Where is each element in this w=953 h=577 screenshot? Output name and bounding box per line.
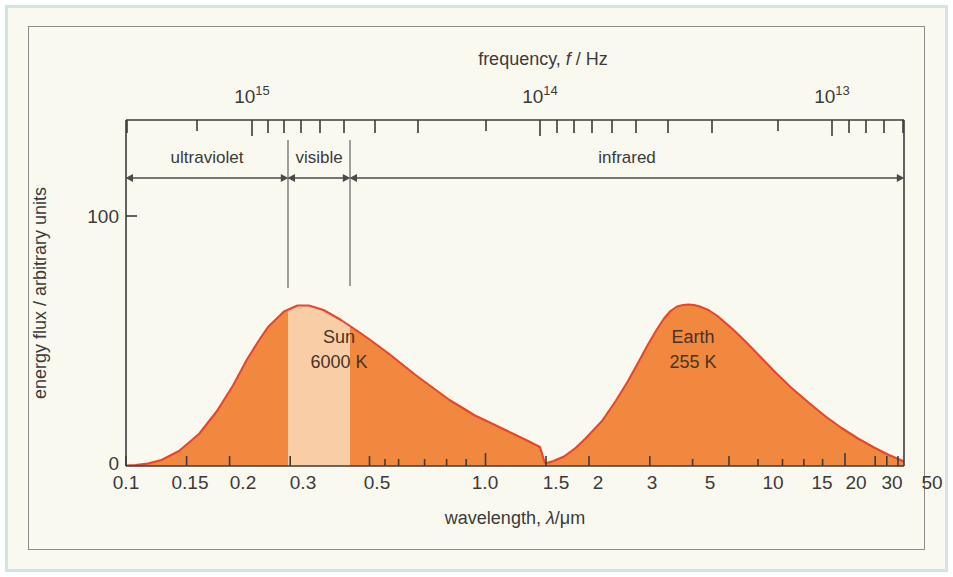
xtick-label-0.3: 0.3: [290, 472, 316, 493]
xtick-label-15: 15: [811, 472, 832, 493]
xtick-label-0.5: 0.5: [364, 472, 390, 493]
xtick-label-0.1: 0.1: [113, 472, 139, 493]
ftick-mantissa-1e15: 10: [234, 86, 255, 107]
y-axis-title: energy flux / arbitrary units: [30, 187, 50, 399]
wavelength-axis-title-prefix: wavelength,: [444, 508, 546, 528]
xtick-label-20: 20: [845, 472, 866, 493]
wavelength-axis-title: wavelength, λ/μm: [444, 508, 585, 528]
xtick-label-0.15: 0.15: [172, 472, 209, 493]
frequency-axis-title: frequency, f / Hz: [478, 49, 608, 69]
frequency-tick-labels: 1015 1014 1013: [234, 83, 850, 107]
earth-label-name: Earth: [671, 327, 714, 347]
ftick-mantissa-1e13: 10: [814, 86, 835, 107]
xtick-label-0.2: 0.2: [230, 472, 256, 493]
band-label-visible: visible: [295, 148, 342, 167]
xtick-label-30: 30: [881, 472, 902, 493]
band-labels: ultraviolet visible infrared: [171, 148, 656, 167]
xtick-label-2: 2: [593, 472, 604, 493]
frequency-axis-ticks: [127, 120, 903, 136]
xtick-label-10: 10: [762, 472, 783, 493]
sun-label-temperature: 6000 K: [310, 352, 367, 372]
frequency-axis-title-prefix: frequency,: [478, 49, 566, 69]
frequency-axis-title-suffix: / Hz: [571, 49, 608, 69]
band-label-infrared: infrared: [598, 148, 656, 167]
chart-svg: 0.1 0.15 0.2 0.3 0.5 1.0 1.5 2 3 5 10 15…: [0, 0, 953, 577]
chart-area: 0.1 0.15 0.2 0.3 0.5 1.0 1.5 2 3 5 10 15…: [0, 0, 953, 577]
xtick-label-50: 50: [921, 472, 942, 493]
wavelength-axis-title-symbol: λ: [545, 508, 555, 528]
ftick-label-1e14: 1014: [522, 83, 558, 107]
x-axis-tick-labels: 0.1 0.15 0.2 0.3 0.5 1.0 1.5 2 3 5 10 15…: [113, 472, 953, 493]
sun-label-name: Sun: [323, 327, 355, 347]
xtick-label-5: 5: [705, 472, 716, 493]
ftick-exponent-1e14: 14: [543, 83, 557, 98]
wavelength-axis-title-suffix: /μm: [555, 508, 585, 528]
ytick-label-0: 0: [108, 453, 119, 474]
figure-root: 0.1 0.15 0.2 0.3 0.5 1.0 1.5 2 3 5 10 15…: [0, 0, 953, 577]
xtick-label-1.5: 1.5: [543, 472, 569, 493]
ytick-label-100: 100: [87, 206, 119, 227]
ftick-label-1e15: 1015: [234, 83, 270, 107]
band-label-ultraviolet: ultraviolet: [171, 148, 244, 167]
ftick-exponent-1e15: 15: [255, 83, 269, 98]
ftick-exponent-1e13: 13: [835, 83, 849, 98]
xtick-label-3: 3: [647, 472, 658, 493]
earth-label-temperature: 255 K: [669, 352, 716, 372]
xtick-label-1.0: 1.0: [472, 472, 498, 493]
earth-curve-area: [545, 305, 904, 467]
ftick-mantissa-1e14: 10: [522, 86, 543, 107]
ftick-label-1e13: 1013: [814, 83, 850, 107]
